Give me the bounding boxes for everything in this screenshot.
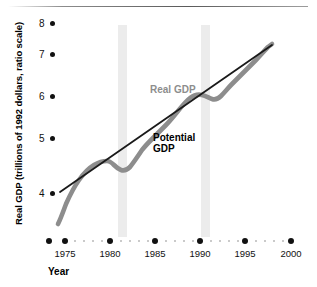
x-minor-dot xyxy=(83,240,85,242)
x-minor-dot xyxy=(129,240,131,242)
x-minor-dot xyxy=(210,240,212,242)
x-tick-dot-1975 xyxy=(62,238,68,244)
x-minor-dot xyxy=(192,240,194,242)
x-tick-label-1990: 1990 xyxy=(185,248,215,259)
x-minor-dot xyxy=(92,240,94,242)
x-minor-dot xyxy=(138,240,140,242)
potential-gdp-annotation: Potential GDP xyxy=(153,132,195,154)
x-tick-label-1995: 1995 xyxy=(230,248,260,259)
potential-gdp-annotation-line2: GDP xyxy=(153,143,175,154)
x-minor-dot xyxy=(255,240,257,242)
x-minor-dot xyxy=(120,240,122,242)
x-tick-dot-1995 xyxy=(242,238,248,244)
x-axis-title: Year xyxy=(48,266,69,277)
gdp-chart: Real GDP (trillions of 1992 dollars, rat… xyxy=(0,0,317,287)
potential-gdp-annotation-line1: Potential xyxy=(153,132,195,143)
x-tick-dot-1990 xyxy=(197,238,203,244)
x-minor-dot xyxy=(101,240,103,242)
x-minor-dot xyxy=(264,240,266,242)
x-tick-label-2000: 2000 xyxy=(276,248,306,259)
x-minor-dot xyxy=(165,240,167,242)
x-minor-dot xyxy=(228,240,230,242)
x-minor-dot xyxy=(147,240,149,242)
x-tick-label-1975: 1975 xyxy=(50,248,80,259)
x-minor-dot xyxy=(74,240,76,242)
x-minor-dot xyxy=(174,240,176,242)
x-minor-dot xyxy=(237,240,239,242)
x-tick-label-1980: 1980 xyxy=(95,248,125,259)
x-tick-dot-2000 xyxy=(288,238,294,244)
x-minor-dot xyxy=(219,240,221,242)
x-tick-label-1985: 1985 xyxy=(140,248,170,259)
real-gdp-annotation: Real GDP xyxy=(150,84,196,95)
x-minor-dot xyxy=(183,240,185,242)
x-minor-dot xyxy=(282,240,284,242)
x-tick-dot-1985 xyxy=(152,238,158,244)
potential-gdp-line xyxy=(60,45,272,192)
x-minor-dot xyxy=(273,240,275,242)
x-tick-dot-1980 xyxy=(107,238,113,244)
x-axis-origin-dot xyxy=(46,238,52,244)
